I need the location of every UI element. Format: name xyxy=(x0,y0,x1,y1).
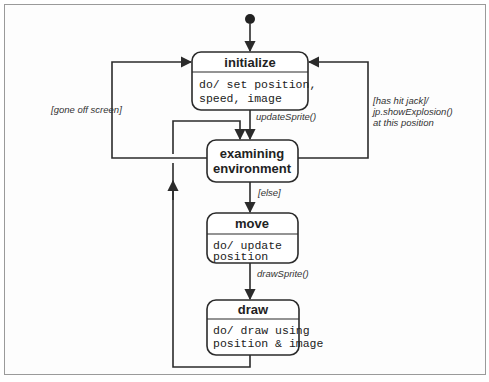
label-else: [else] xyxy=(257,187,281,198)
label-update-sprite: updateSprite() xyxy=(256,111,316,122)
state-initialize: initialize do/ set position, speed, imag… xyxy=(192,52,316,110)
state-examining-title-1: examining xyxy=(220,146,284,161)
state-examining-title-2: environment xyxy=(213,161,292,176)
label-has-hit-jack-1: [has hit jack]/ xyxy=(372,95,430,106)
state-draw: draw do/ draw using position & image xyxy=(207,300,324,355)
label-has-hit-jack-2: jp.showExplosion() xyxy=(371,106,453,117)
state-move: move do/ update position xyxy=(207,213,298,263)
state-examining-environment: examining environment xyxy=(207,140,298,182)
initial-state-dot xyxy=(245,14,255,51)
state-draw-activity-2: position & image xyxy=(213,337,324,350)
state-diagram: initialize do/ set position, speed, imag… xyxy=(0,0,489,382)
state-initialize-title: initialize xyxy=(224,55,275,70)
state-draw-activity-1: do/ draw using xyxy=(213,324,310,337)
label-draw-sprite: drawSprite() xyxy=(257,268,309,279)
label-has-hit-jack-3: at this position xyxy=(373,117,434,128)
state-move-activity-2: position xyxy=(213,250,268,263)
label-gone-off-screen: [gone off screen] xyxy=(50,104,122,115)
state-move-title: move xyxy=(235,216,269,231)
state-initialize-activity-1: do/ set position, xyxy=(199,78,316,91)
state-initialize-activity-2: speed, image xyxy=(199,92,282,105)
state-draw-title: draw xyxy=(238,302,269,317)
